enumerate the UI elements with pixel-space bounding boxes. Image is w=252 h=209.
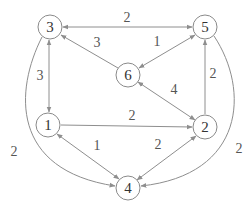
edge-2-6: [138, 82, 195, 120]
weight-2-5: 2: [210, 66, 217, 81]
edge-3-4: [25, 37, 115, 186]
weight-2-6: 4: [171, 82, 178, 97]
node-3-label: 3: [46, 19, 54, 35]
weight-6-3: 3: [94, 35, 101, 50]
weight-5-6: 1: [154, 34, 161, 49]
edge-1-4: [57, 134, 119, 179]
node-3: 3: [38, 15, 62, 39]
graph-diagram: 2 3 1 3 2 4 2 1 2 2 2 3 5 6 1 2 4: [0, 0, 252, 209]
weight-5-4: 2: [236, 141, 243, 156]
node-1-label: 1: [44, 117, 52, 133]
edge-5-6: [139, 35, 195, 68]
node-2-label: 2: [201, 119, 209, 135]
weight-3-5: 2: [124, 10, 131, 25]
node-4-label: 4: [124, 180, 132, 196]
node-6: 6: [116, 63, 140, 87]
node-2: 2: [193, 115, 217, 139]
node-1: 1: [36, 113, 60, 137]
node-5-label: 5: [201, 19, 209, 35]
weight-1-2: 2: [129, 108, 136, 123]
weight-3-1: 3: [37, 68, 44, 83]
node-4: 4: [116, 176, 140, 200]
weight-1-4: 1: [94, 138, 101, 153]
edge-1-2: [61, 125, 192, 127]
node-6-label: 6: [124, 67, 132, 83]
edge-6-3: [61, 35, 118, 68]
weight-3-4: 2: [11, 144, 18, 159]
weight-2-4: 2: [155, 137, 162, 152]
node-5: 5: [193, 15, 217, 39]
